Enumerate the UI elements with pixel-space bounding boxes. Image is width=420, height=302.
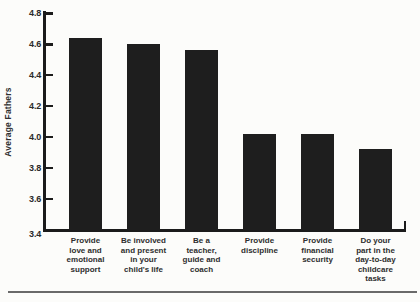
bar-1 (69, 38, 102, 230)
bar-3 (185, 50, 218, 229)
category-label-1: Provide love and emotional support (56, 236, 116, 274)
y-tick (45, 198, 53, 201)
category-label-2: Be involved and present in your child's … (114, 236, 174, 274)
x-axis-end-tick (404, 221, 407, 230)
bar-2 (127, 44, 160, 230)
y-tick (45, 43, 53, 46)
bar-5 (301, 134, 334, 230)
y-tick-label: 3.6 (12, 194, 41, 204)
y-tick-label: 3.8 (12, 163, 41, 173)
y-tick-label: 4.2 (12, 101, 41, 111)
y-tick-label: 4.4 (12, 70, 41, 80)
category-label-4: Provide discipline (230, 236, 290, 255)
y-tick (45, 12, 53, 15)
y-tick (45, 136, 53, 139)
y-tick-label: 4.6 (12, 39, 41, 49)
y-tick-label: 3.4 (12, 229, 41, 239)
y-tick (45, 105, 53, 108)
category-label-6: Do your part in the day-to-day childcare… (346, 236, 406, 284)
category-label-3: Be a teacher, guide and coach (172, 236, 232, 274)
y-tick (45, 74, 53, 77)
category-label-5: Provide financial security (288, 236, 348, 265)
bar-6 (359, 149, 392, 229)
y-tick-label: 4.0 (12, 132, 41, 142)
y-axis-title: Average Fathers (3, 86, 15, 158)
bar-4 (243, 134, 276, 230)
bar-chart: Average Fathers 4.84.64.44.24.03.83.63.4… (0, 0, 420, 302)
y-tick (45, 167, 53, 170)
y-tick-label: 4.8 (12, 8, 41, 18)
bottom-divider (8, 291, 417, 293)
